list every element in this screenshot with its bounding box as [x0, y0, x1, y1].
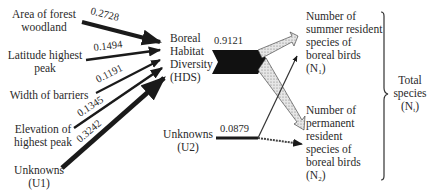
arrow-hds-to-n1 — [258, 32, 298, 58]
label-u1: Unknowns (U1) — [10, 164, 68, 190]
coef-hds: 0.9121 — [214, 35, 243, 46]
label-forest: Area of forest woodland — [6, 8, 82, 34]
label-elevation: Elevation of highest peak — [10, 123, 76, 149]
label-u2: Unknowns (U2) — [160, 128, 216, 154]
coef-u1: 0.3242 — [74, 118, 103, 145]
label-n2: Number of permanent resident species of … — [306, 104, 361, 186]
label-latitude: Latitude highest peak — [2, 49, 88, 75]
arrow-u2-to-n2 — [258, 138, 302, 144]
hds-outflow-band — [212, 50, 266, 74]
label-barriers: Width of barriers — [4, 89, 94, 102]
label-n1: Number of summer resident species of bor… — [306, 10, 382, 79]
coef-forest: 0.2728 — [90, 5, 121, 23]
label-total: Total species (Nt) — [390, 74, 430, 117]
label-hds: Boreal Habitat Diversity (HDS) — [170, 32, 213, 84]
coef-latitude: 0.1494 — [93, 38, 124, 53]
arrow-hds-to-n2 — [258, 58, 305, 130]
coef-u2: 0.0879 — [220, 123, 249, 134]
